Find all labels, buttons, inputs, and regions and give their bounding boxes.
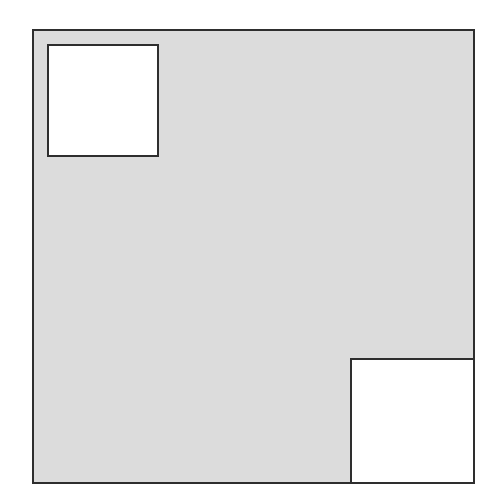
bottom-right-white-square <box>351 359 474 483</box>
diagram-canvas <box>0 0 496 499</box>
top-left-white-square <box>48 45 158 156</box>
square-diagram <box>0 0 496 499</box>
